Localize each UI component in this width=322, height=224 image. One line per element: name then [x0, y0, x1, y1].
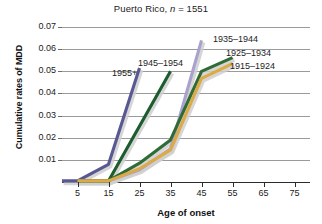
y-tick-mark	[58, 160, 62, 161]
x-tick-label: 55	[221, 188, 245, 198]
x-tick-label: 45	[190, 188, 214, 198]
y-tick-label: 0.05	[22, 65, 56, 75]
x-tick-mark	[295, 182, 296, 187]
series-label: 1945–1954	[138, 58, 183, 68]
y-tick-label: 0.07	[22, 21, 56, 31]
series-line-shadow	[79, 66, 234, 183]
chart-figure: Puerto Rico, n = 1551 Cumulative rates o…	[0, 0, 322, 224]
series-line	[62, 68, 140, 181]
x-tick-label: 25	[128, 188, 152, 198]
x-tick-label: 75	[283, 188, 307, 198]
y-tick-label: 0.02	[22, 132, 56, 142]
series-label: 1935–1944	[213, 34, 258, 44]
y-tick-label: 0.03	[22, 110, 56, 120]
x-tick-label: 5	[66, 188, 90, 198]
y-tick-mark	[58, 116, 62, 117]
x-tick-mark	[171, 182, 172, 187]
series-label: 1955+	[112, 68, 137, 78]
y-tick-label: 0.06	[22, 43, 56, 53]
x-tick-label: 15	[97, 188, 121, 198]
y-tick-mark	[58, 93, 62, 94]
y-tick-mark	[58, 138, 62, 139]
x-tick-mark	[109, 182, 110, 187]
x-tick-label: 35	[159, 188, 183, 198]
y-tick-mark	[58, 71, 62, 72]
x-tick-label: 65	[252, 188, 276, 198]
y-tick-mark	[58, 49, 62, 50]
x-tick-mark	[140, 182, 141, 187]
series-label: 1925–1934	[226, 48, 271, 58]
x-tick-mark	[202, 182, 203, 187]
x-tick-mark	[233, 182, 234, 187]
x-tick-mark	[78, 182, 79, 187]
x-tick-mark	[264, 182, 265, 187]
y-tick-label: 0.04	[22, 87, 56, 97]
y-tick-label: 0.01	[22, 154, 56, 164]
series-label: 1915–1924	[230, 61, 275, 71]
series-line-shadow	[79, 73, 172, 183]
y-tick-mark	[58, 27, 62, 28]
